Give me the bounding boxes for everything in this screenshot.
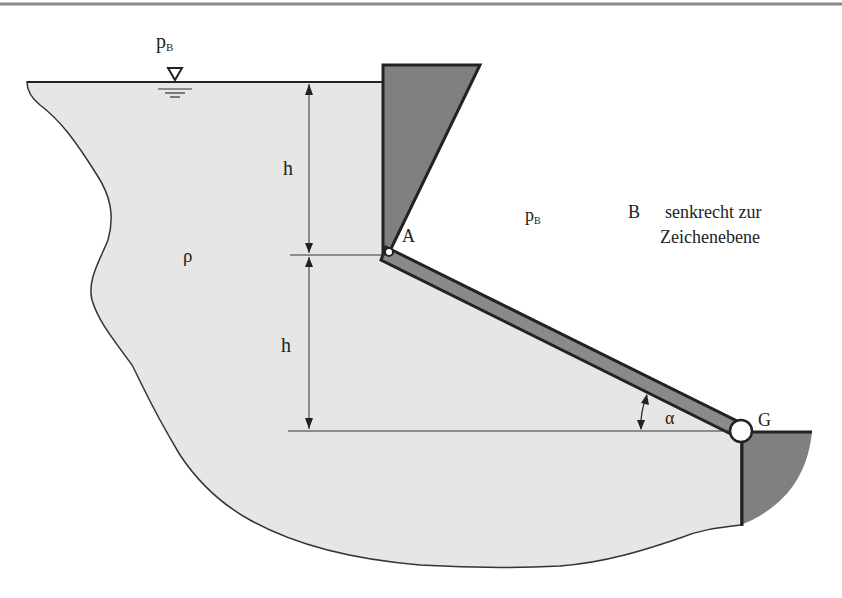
diagram-canvas: pB pB ρ h h A G α B senkrecht zur Zeiche… bbox=[0, 0, 842, 598]
density-label: ρ bbox=[183, 245, 192, 266]
hinge-g-label: G bbox=[758, 410, 771, 430]
angle-label: α bbox=[665, 408, 675, 428]
hinge-a-label: A bbox=[402, 226, 415, 246]
hinge-a bbox=[385, 248, 393, 256]
width-note-line1: senkrecht zur bbox=[665, 202, 761, 222]
gate-pressure-label: pB bbox=[525, 205, 541, 226]
height-upper-label: h bbox=[283, 157, 293, 179]
width-symbol-label: B bbox=[628, 202, 640, 222]
hinge-g bbox=[730, 420, 752, 442]
width-note-line2: Zeichenebene bbox=[660, 227, 760, 247]
water-level-icon bbox=[168, 68, 182, 80]
surface-pressure-label: pB bbox=[156, 30, 173, 53]
height-lower-label: h bbox=[281, 334, 291, 356]
lower-wall bbox=[741, 432, 812, 525]
upper-wall bbox=[383, 65, 480, 258]
